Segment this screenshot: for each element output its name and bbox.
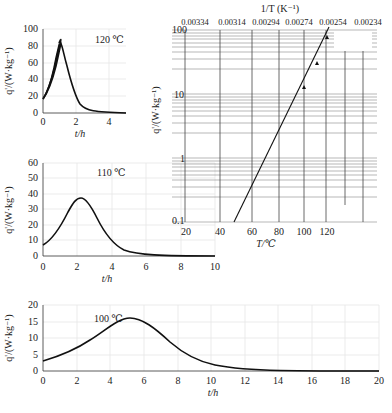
- panel-110c: 60 50 40 30 20 10 0 0 2 4 6 8 10 t/h q'/…: [3, 157, 220, 284]
- svg-text:20: 20: [374, 375, 384, 386]
- svg-text:120: 120: [320, 226, 335, 237]
- temperature-label: 120 ℃: [95, 34, 124, 45]
- svg-text:0: 0: [41, 261, 46, 272]
- svg-text:6: 6: [144, 261, 149, 272]
- svg-text:10: 10: [28, 332, 38, 343]
- svg-text:0: 0: [33, 365, 38, 376]
- svg-text:0.00294: 0.00294: [252, 17, 280, 27]
- svg-text:0: 0: [33, 107, 38, 118]
- panel-100c: 20 15 10 5 0 0 2 4 6 8 10 12 14 16 18 20…: [3, 299, 384, 398]
- svg-text:6: 6: [142, 375, 147, 386]
- svg-text:12: 12: [240, 375, 250, 386]
- panel-120c: 100 80 60 40 20 0 0 2 4 t/h q'/(W·kg⁻¹) …: [3, 23, 126, 139]
- svg-text:8: 8: [176, 375, 181, 386]
- svg-text:40: 40: [215, 226, 225, 237]
- svg-text:0.00274: 0.00274: [285, 17, 313, 27]
- x-axis-label: t/h: [75, 128, 86, 139]
- panel-arrhenius: 100 10 1 0.1 20 40 60 80 100 120 T/℃ 0.0…: [150, 3, 383, 249]
- svg-text:60: 60: [247, 226, 257, 237]
- svg-text:2: 2: [75, 261, 80, 272]
- svg-text:20: 20: [181, 226, 191, 237]
- svg-text:0: 0: [41, 375, 46, 386]
- svg-text:80: 80: [274, 226, 284, 237]
- x-axis-label: T/℃: [256, 238, 276, 249]
- top-axis-label: 1/T (K⁻¹): [261, 3, 299, 15]
- svg-text:80: 80: [28, 40, 38, 51]
- svg-text:20: 20: [28, 219, 38, 230]
- svg-text:10: 10: [210, 261, 220, 272]
- svg-text:0.00234: 0.00234: [354, 17, 382, 27]
- svg-text:10: 10: [206, 375, 216, 386]
- svg-text:100: 100: [297, 226, 312, 237]
- y-axis-label: q'/(W·kg⁻¹): [3, 314, 15, 361]
- svg-text:0.00314: 0.00314: [218, 17, 246, 27]
- svg-text:2: 2: [74, 116, 79, 127]
- x-axis-label: t/h: [208, 387, 219, 398]
- svg-text:10: 10: [28, 234, 38, 245]
- svg-text:0: 0: [41, 116, 46, 127]
- svg-text:30: 30: [28, 203, 38, 214]
- svg-text:14: 14: [273, 375, 283, 386]
- svg-text:4: 4: [108, 375, 113, 386]
- svg-text:4: 4: [107, 116, 112, 127]
- svg-text:0: 0: [33, 250, 38, 261]
- svg-text:8: 8: [179, 261, 184, 272]
- ytick-1: 1: [180, 153, 185, 164]
- svg-text:0.00334: 0.00334: [181, 17, 209, 27]
- ytick-10: 10: [174, 89, 184, 100]
- svg-text:100: 100: [23, 23, 38, 34]
- arrhenius-fit-line: [234, 27, 329, 222]
- svg-text:16: 16: [307, 375, 317, 386]
- svg-text:0.00254: 0.00254: [319, 17, 347, 27]
- svg-text:18: 18: [340, 375, 350, 386]
- svg-text:20: 20: [28, 299, 38, 310]
- temperature-label: 100 ℃: [94, 313, 123, 324]
- svg-text:15: 15: [28, 316, 38, 327]
- temperature-label: 110 ℃: [97, 167, 125, 178]
- y-axis-label: q'/(W·kg⁻¹): [150, 86, 162, 133]
- x-axis-label: t/h: [102, 273, 113, 284]
- y-axis-label: q'/(W·kg⁻¹): [3, 47, 15, 94]
- ytick-0.1: 0.1: [172, 215, 185, 226]
- svg-text:2: 2: [75, 375, 80, 386]
- svg-text:4: 4: [110, 261, 115, 272]
- svg-text:50: 50: [28, 172, 38, 183]
- svg-text:60: 60: [28, 57, 38, 68]
- figure: 100 80 60 40 20 0 0 2 4 t/h q'/(W·kg⁻¹) …: [0, 0, 392, 413]
- y-axis-label: q'/(W·kg⁻¹): [3, 186, 15, 233]
- svg-text:5: 5: [33, 349, 38, 360]
- svg-text:20: 20: [28, 90, 38, 101]
- svg-text:60: 60: [28, 157, 38, 168]
- svg-text:40: 40: [28, 73, 38, 84]
- svg-text:40: 40: [28, 188, 38, 199]
